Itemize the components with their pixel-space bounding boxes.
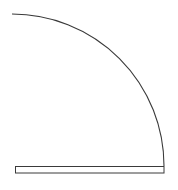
- door-swing-diagram: [0, 0, 178, 190]
- swing-arc: [12, 14, 164, 166]
- door-leaf: [16, 167, 165, 174]
